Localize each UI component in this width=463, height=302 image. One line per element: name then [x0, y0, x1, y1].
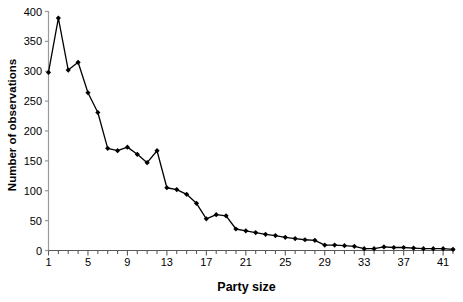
data-point-marker: [273, 233, 278, 238]
data-point-marker: [332, 243, 337, 248]
data-point-marker: [85, 90, 90, 95]
chart-container: Number of observations 05010015020025030…: [0, 0, 463, 302]
data-point-marker: [381, 244, 386, 249]
data-point-marker: [253, 230, 258, 235]
data-point-marker: [214, 212, 219, 217]
data-point-marker: [391, 245, 396, 250]
data-point-marker: [401, 245, 406, 250]
data-point-marker: [243, 228, 248, 233]
data-point-marker: [302, 237, 307, 242]
data-point-marker: [115, 148, 120, 153]
data-point-marker: [450, 247, 455, 252]
data-point-marker: [105, 146, 110, 151]
data-point-marker: [322, 243, 327, 248]
data-point-marker: [164, 185, 169, 190]
data-point-marker: [342, 243, 347, 248]
data-point-marker: [283, 235, 288, 240]
data-point-marker: [293, 236, 298, 241]
data-point-marker: [46, 70, 51, 75]
data-point-marker: [352, 244, 357, 249]
data-point-marker: [95, 110, 100, 115]
line-chart-plot: [0, 0, 463, 302]
data-point-marker: [312, 238, 317, 243]
data-point-marker: [263, 232, 268, 237]
data-point-marker: [56, 15, 61, 20]
data-series-line: [49, 18, 454, 249]
data-point-marker: [174, 187, 179, 192]
